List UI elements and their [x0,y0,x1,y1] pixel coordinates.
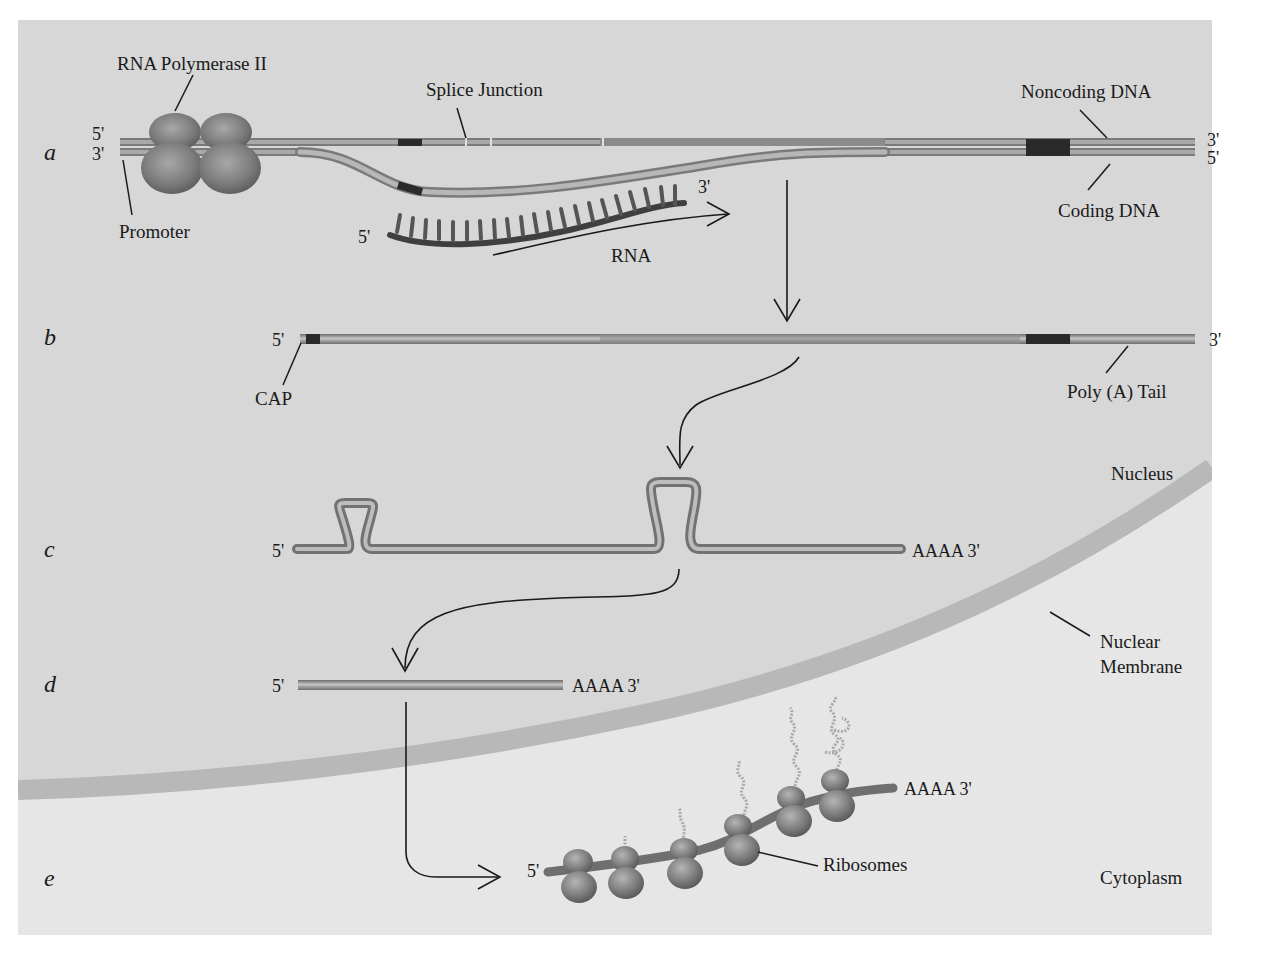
translation-right-end: AAAA 3' [904,779,972,799]
spliced-left-end: 5' [272,541,284,561]
label-nucleus: Nucleus [1111,463,1173,484]
mrna-right-end: AAAA 3' [572,676,640,696]
spliced-right-end: AAAA 3' [912,541,980,561]
exon-block [1026,139,1070,156]
row-letter-e: e [44,865,55,891]
rna-right-end: 3' [698,177,710,197]
label-cytoplasm: Cytoplasm [1100,867,1183,888]
dna-top-left-end: 5' [92,124,104,144]
gene-expression-diagram: a b c d e [0,0,1284,957]
mature-mrna-strand [298,680,563,690]
label-poly-a-tail: Poly (A) Tail [1067,381,1167,403]
exon-block [1026,334,1070,344]
label-nuclear-membrane-line2: Membrane [1100,656,1182,677]
label-noncoding-dna: Noncoding DNA [1021,81,1152,102]
label-rna: RNA [611,245,651,266]
label-cap: CAP [255,388,292,409]
label-rna-polymerase: RNA Polymerase II [117,53,267,74]
translation-left-end: 5' [527,861,539,881]
label-promoter: Promoter [119,221,190,242]
row-letter-a: a [44,139,56,165]
label-nuclear-membrane-line1: Nuclear [1100,631,1161,652]
ribosome-icon [561,849,597,903]
dna-bottom-left-end: 3' [92,144,104,164]
row-letter-b: b [44,324,56,350]
row-letter-c: c [44,536,55,562]
mrna-left-end: 5' [272,676,284,696]
exon-block [398,139,422,146]
dna-bottom-right-end: 5' [1207,148,1219,168]
pre-mrna-right-end: 3' [1209,330,1221,350]
pre-mrna-left-end: 5' [272,330,284,350]
cap-block [306,334,320,344]
row-letter-d: d [44,671,57,697]
label-splice-junction: Splice Junction [426,79,543,100]
label-coding-dna: Coding DNA [1058,200,1160,221]
rna-left-end: 5' [358,227,370,247]
label-ribosomes: Ribosomes [823,854,907,875]
dna-top-right-end: 3' [1207,130,1219,150]
